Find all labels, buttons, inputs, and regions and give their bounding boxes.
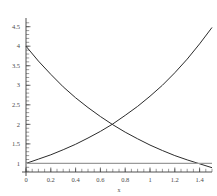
x-axis-title: x — [118, 187, 121, 193]
y-tick-label: 3 — [17, 81, 20, 88]
x-tick-label: 1.2 — [171, 176, 179, 183]
chart-canvas: 00.20.40.60.811.21.4 11.522.533.544.5 x — [0, 0, 217, 196]
x-tick-label: 0.2 — [47, 176, 55, 183]
series-decreasing-exponential — [26, 46, 212, 167]
x-tick-label: 0 — [24, 176, 27, 183]
y-tick-label: 1 — [17, 160, 20, 167]
y-tick-label: 4.5 — [12, 23, 20, 30]
y-tick-label: 2 — [17, 121, 20, 128]
x-tick-label: 0.4 — [72, 176, 81, 183]
y-tick-label: 1.5 — [12, 140, 20, 147]
y-tick-label: 4 — [17, 42, 21, 49]
plot-figure: 00.20.40.60.811.21.4 11.522.533.544.5 x — [0, 0, 217, 196]
data-series-group — [26, 27, 212, 167]
series-increasing-exponential — [26, 27, 212, 163]
y-axis-minor-ticks — [26, 23, 29, 171]
x-tick-label: 1 — [148, 176, 151, 183]
x-axis-tick-labels: 00.20.40.60.811.21.4 — [24, 176, 204, 183]
y-axis-tick-labels: 11.522.533.544.5 — [12, 23, 21, 167]
x-tick-label: 1.4 — [196, 176, 205, 183]
x-axis-minor-ticks — [26, 169, 212, 172]
x-tick-label: 0.6 — [96, 176, 105, 183]
y-tick-label: 2.5 — [12, 101, 20, 108]
y-tick-label: 3.5 — [12, 62, 20, 69]
x-tick-label: 0.8 — [121, 176, 129, 183]
